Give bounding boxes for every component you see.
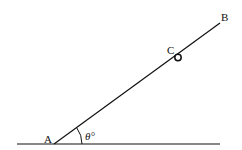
line-ab [54, 23, 220, 144]
label-c: C [167, 44, 174, 56]
diagram-canvas: A B C θ° [0, 0, 242, 150]
label-a: A [44, 133, 52, 145]
label-theta: θ° [85, 130, 95, 142]
point-c-ring [175, 54, 181, 60]
angle-arc [77, 128, 82, 145]
label-b: B [221, 11, 228, 23]
